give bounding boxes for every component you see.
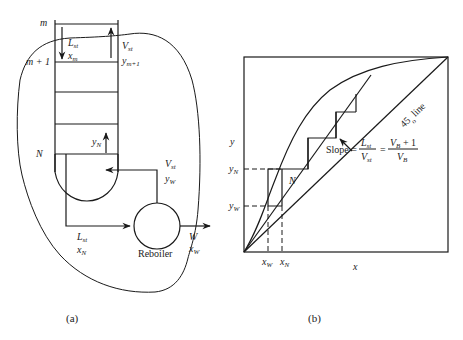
label-V-st-bottom: Vst (165, 158, 177, 171)
label-stage-N: N (288, 175, 297, 186)
reboiler-icon (134, 203, 180, 249)
caption-b: (b) (308, 312, 321, 325)
label-reboiler: Reboiler (138, 248, 173, 259)
slope-num2: VB + 1 (390, 137, 416, 150)
label-L-st-top: Lst (67, 37, 79, 50)
label-L-st-bottom: Lst (76, 231, 88, 244)
label-V-st-top: Vst (122, 40, 134, 53)
label-tray-N: N (35, 148, 44, 159)
label-y-N: yN (91, 136, 101, 149)
label-x-W-a: xW (188, 243, 200, 256)
label-W: W (189, 231, 199, 242)
label-x-m: xm (67, 50, 78, 63)
y-axis-label: y (229, 136, 235, 147)
distillation-diagram: m m + 1 N Lst xm Vst ym+1 yN Vst yW Lst … (0, 0, 463, 340)
caption-a: (a) (66, 312, 79, 325)
slope-den2: VB (397, 151, 408, 164)
label-y-N-b: yN (228, 163, 238, 176)
stage-steps (268, 112, 356, 206)
column-bottom (55, 154, 118, 201)
slope-prefix: Slope = (326, 144, 357, 155)
label-45-line: 45oline (398, 100, 431, 132)
panel-b: y x yN yW xW xN N 45oline Slope = Lst Vs… (228, 57, 448, 325)
label-y-W-a: yW (164, 173, 176, 186)
label-x-W-b: xW (261, 256, 273, 269)
label-tray-m: m (40, 17, 47, 28)
slope-num: Lst (360, 137, 372, 150)
label-y-W-b: yW (228, 200, 240, 213)
slope-eq: = (380, 144, 386, 155)
label-x-N-a: xN (76, 244, 86, 257)
slope-den: Vst (361, 151, 373, 164)
panel-a: m m + 1 N Lst xm Vst ym+1 yN Vst yW Lst … (17, 17, 210, 325)
label-tray-m1: m + 1 (26, 56, 50, 67)
liquid-outlet-line (66, 154, 130, 226)
label-x-N-b: xN (279, 256, 289, 269)
x-axis-label: x (352, 261, 358, 272)
label-y-m1: ym+1 (121, 55, 140, 68)
